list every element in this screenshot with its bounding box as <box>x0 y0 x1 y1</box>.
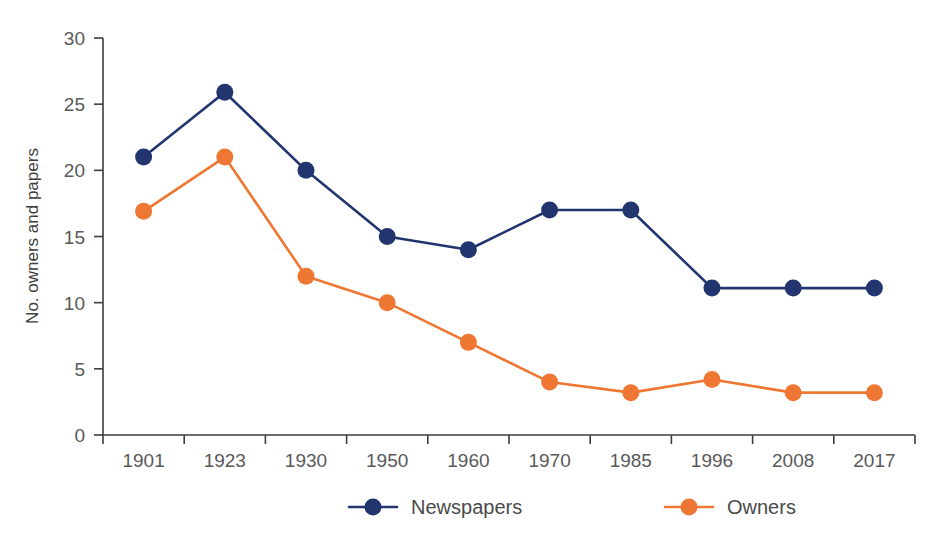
y-tick-label: 10 <box>64 293 85 314</box>
x-tick-label: 1930 <box>285 450 327 471</box>
x-tick-label: 1985 <box>610 450 652 471</box>
data-point-marker <box>298 162 315 179</box>
data-point-marker <box>460 334 477 351</box>
legend-label: Owners <box>727 496 796 518</box>
x-tick-label: 2017 <box>853 450 895 471</box>
data-point-marker <box>622 384 639 401</box>
y-tick-label: 5 <box>74 359 85 380</box>
x-tick-label: 1960 <box>447 450 489 471</box>
data-point-marker <box>216 149 233 166</box>
legend-label: Newspapers <box>411 496 522 518</box>
y-tick-label: 30 <box>64 28 85 49</box>
legend-marker-dot <box>365 499 382 516</box>
data-point-marker <box>541 202 558 219</box>
data-point-marker <box>541 374 558 391</box>
data-point-marker <box>216 84 233 101</box>
y-tick-label: 15 <box>64 227 85 248</box>
x-tick-label: 1923 <box>204 450 246 471</box>
data-point-marker <box>135 203 152 220</box>
x-tick-label: 1970 <box>528 450 570 471</box>
data-point-marker <box>785 280 802 297</box>
data-point-marker <box>704 371 721 388</box>
data-point-marker <box>379 228 396 245</box>
x-tick-label: 1996 <box>691 450 733 471</box>
x-tick-label: 2008 <box>772 450 814 471</box>
y-axis-title: No. owners and papers <box>23 148 42 324</box>
data-point-marker <box>135 149 152 166</box>
chart-canvas: 051015202530 190119231930195019601970198… <box>0 0 941 545</box>
data-point-marker <box>622 202 639 219</box>
y-tick-label: 0 <box>74 425 85 446</box>
data-point-marker <box>379 294 396 311</box>
data-point-marker <box>785 384 802 401</box>
data-point-marker <box>866 384 883 401</box>
data-point-marker <box>866 280 883 297</box>
legend-marker-dot <box>681 499 698 516</box>
data-point-marker <box>460 241 477 258</box>
y-tick-label: 25 <box>64 94 85 115</box>
data-point-marker <box>298 268 315 285</box>
y-tick-label: 20 <box>64 160 85 181</box>
data-point-marker <box>704 280 721 297</box>
x-tick-label: 1950 <box>366 450 408 471</box>
line-chart: 051015202530 190119231930195019601970198… <box>0 0 941 545</box>
x-tick-label: 1901 <box>122 450 164 471</box>
